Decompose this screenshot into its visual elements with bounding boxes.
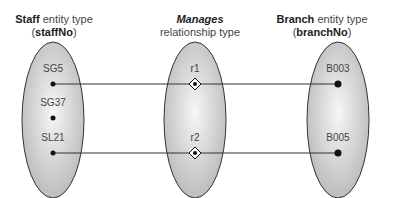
relationship-label-2: r2: [191, 132, 200, 143]
branch-dot-2: [335, 150, 342, 157]
branch-label-2: B005: [326, 132, 350, 143]
branch-dot-1: [335, 81, 342, 88]
staff-dot-2: [51, 116, 56, 121]
staff-label-3: SL21: [41, 132, 65, 143]
relationship-label-1: r1: [191, 63, 200, 74]
staff-dot-3: [51, 151, 56, 156]
staff-dot-1: [51, 82, 56, 87]
staff-label-2: SG37: [40, 97, 66, 108]
staff-label-1: SG5: [43, 63, 63, 74]
diagram-canvas: SG5 SG37 SL21 r1 r2 B003 B005: [0, 0, 394, 198]
branch-label-1: B003: [326, 63, 350, 74]
